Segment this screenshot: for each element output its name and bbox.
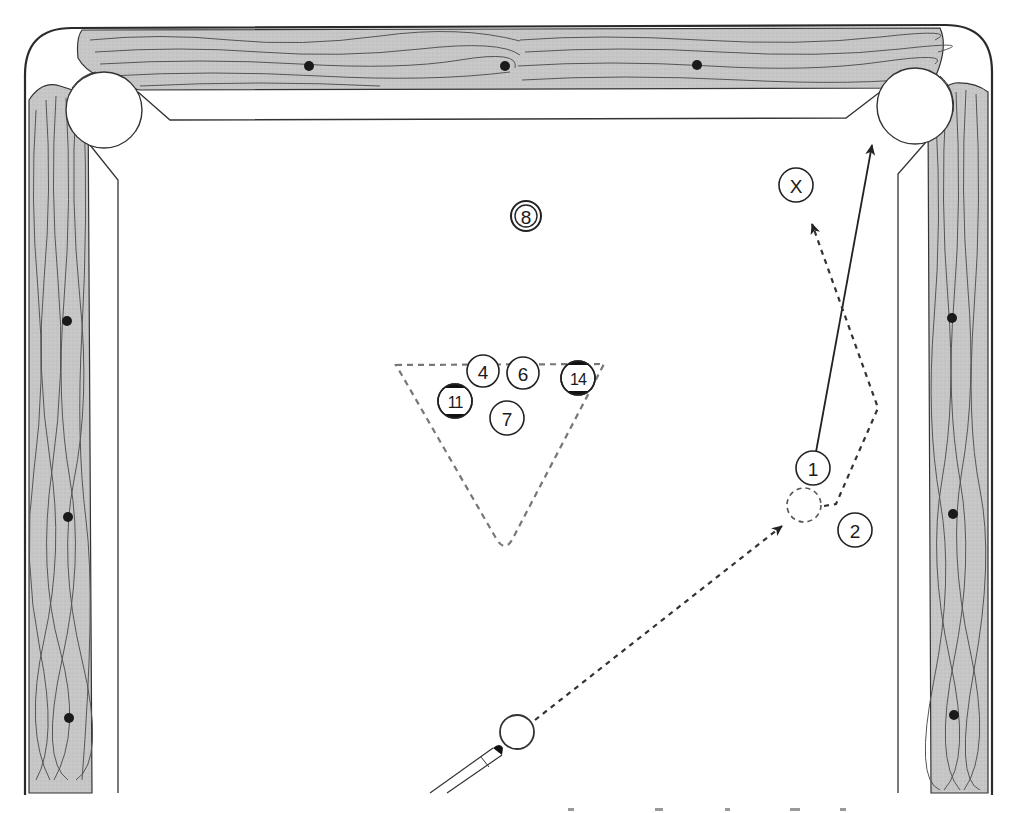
ball-4: 4 (467, 355, 499, 387)
cue-ball (500, 715, 534, 749)
top-right-corner-pocket (877, 68, 954, 144)
left-rail (29, 85, 93, 793)
ball-6: 6 (507, 357, 539, 389)
diamond-marker (304, 61, 314, 71)
diamond-marker (947, 313, 957, 323)
svg-text:7: 7 (502, 409, 513, 430)
cropped-caption-text (568, 808, 846, 811)
svg-text:14: 14 (570, 371, 587, 388)
svg-text:X: X (790, 176, 803, 197)
target-position-marker-x: X (779, 168, 813, 202)
pool-table-diagram: 8 4 6 14 11 7 1 2 (0, 0, 1017, 813)
diamond-marker (692, 60, 702, 70)
svg-text:2: 2 (850, 521, 861, 542)
svg-text:6: 6 (518, 364, 529, 385)
ball-2: 2 (838, 513, 872, 547)
diamond-marker (63, 512, 73, 522)
ball-1: 1 (796, 451, 830, 485)
diamond-marker (948, 509, 958, 519)
top-left-corner-pocket (66, 72, 142, 148)
diamond-marker (64, 713, 74, 723)
diamond-marker (949, 710, 959, 720)
diamond-marker (62, 316, 72, 326)
svg-text:1: 1 (808, 459, 819, 480)
top-rail (78, 28, 953, 90)
right-rail (925, 83, 988, 793)
ball-7: 7 (490, 401, 524, 435)
svg-text:8: 8 (521, 207, 532, 228)
svg-text:11: 11 (448, 394, 464, 411)
ball-8: 8 (511, 201, 541, 231)
svg-text:4: 4 (478, 362, 489, 383)
diamond-marker (500, 61, 510, 71)
